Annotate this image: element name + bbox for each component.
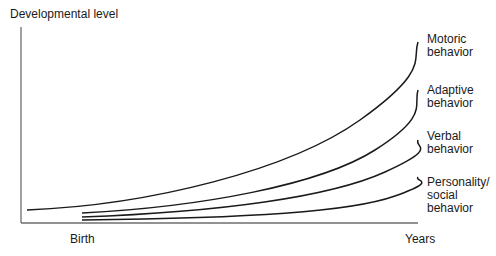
curve-adaptive xyxy=(82,90,418,213)
x-tick-birth: Birth xyxy=(70,232,95,246)
curve-verbal xyxy=(82,140,421,217)
chart-plot xyxy=(0,0,496,256)
label-adaptive: Adaptive behavior xyxy=(427,84,474,110)
x-tick-years: Years xyxy=(405,232,435,246)
label-personality-social: Personality/ social behavior xyxy=(427,176,490,215)
label-verbal: Verbal behavior xyxy=(427,130,473,156)
curve-motoric xyxy=(27,42,418,210)
label-motoric: Motoric behavior xyxy=(427,33,473,59)
